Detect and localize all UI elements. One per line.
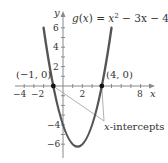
x-intercepts-annotation: x-intercepts <box>104 121 164 132</box>
y-tick-label-4: 4 <box>53 42 59 52</box>
x-axis-label: x <box>150 88 156 99</box>
x-tick-label-8: 8 <box>137 89 143 99</box>
function-label: g(x) = x2 − 3x − 4 <box>72 12 168 24</box>
point-label-left: (−1, 0) <box>16 69 51 80</box>
x-tick-label-neg2: −2 <box>31 89 44 99</box>
y-tick-label-neg6: −6 <box>47 139 61 149</box>
y-tick-label-6: 6 <box>53 23 59 33</box>
y-tick-label-neg4: −4 <box>47 120 61 130</box>
y-axis-arrow <box>61 11 66 17</box>
axes <box>15 11 155 158</box>
intercept-point-right <box>99 84 104 89</box>
y-axis-label: y <box>53 7 60 18</box>
point-label-right: (4, 0) <box>106 69 133 80</box>
parabola-chart: g(x) = x2 − 3x − 4 y x −4 −2 2 8 6 4 2 −… <box>0 0 168 163</box>
x-tick-label-2: 2 <box>80 89 86 99</box>
y-tick-label-2: 2 <box>53 62 59 72</box>
intercept-point-left <box>51 84 56 89</box>
x-tick-label-neg4: −4 <box>13 89 27 99</box>
